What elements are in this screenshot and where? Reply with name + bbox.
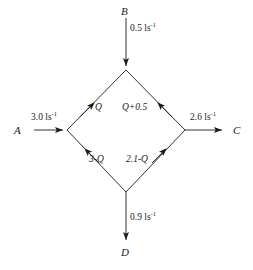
- arrowhead-upper-left: [80, 105, 92, 117]
- flow-unit-exp-inflow-a: -1: [52, 110, 57, 117]
- flow-network-diagram: B A C D 0.5 ls-1 3.0 ls-1 2.6 ls-1 0.9 l…: [0, 0, 253, 270]
- flow-value-outflow-c: 2.6: [190, 112, 202, 122]
- node-label-b: B: [121, 6, 128, 17]
- flow-label-inflow-a: 3.0 ls-1: [31, 113, 57, 123]
- flow-label-outflow-d: 0.9 ls-1: [130, 213, 156, 223]
- arrowhead-lower-right: [152, 151, 164, 163]
- flow-unit-exp-inflow-b: -1: [151, 21, 156, 28]
- edge-line-upper-left: [67, 70, 126, 130]
- edge-label-upper-right: Q+0.5: [122, 103, 147, 113]
- flow-value-outflow-d: 0.9: [130, 212, 142, 222]
- node-label-c: C: [233, 125, 240, 136]
- flow-value-inflow-b: 0.5: [130, 23, 142, 33]
- diagram-canvas: [0, 0, 253, 270]
- flow-label-inflow-b: 0.5 ls-1: [130, 24, 156, 34]
- flow-unit-exp-outflow-c: -1: [211, 110, 216, 117]
- node-label-a: A: [14, 125, 21, 136]
- edge-label-lower-right: 2.1-Q: [126, 155, 148, 165]
- flow-label-outflow-c: 2.6 ls-1: [190, 113, 216, 123]
- node-label-d: D: [121, 247, 129, 258]
- diamond-outline: [67, 70, 185, 192]
- external-arrows: [34, 18, 222, 240]
- edge-label-upper-left: Q: [95, 103, 102, 113]
- edge-line-upper-right: [126, 70, 185, 130]
- edge-label-lower-left: 3-Q: [89, 155, 104, 165]
- arrowhead-upper-right: [160, 105, 172, 117]
- flow-value-inflow-a: 3.0: [31, 112, 43, 122]
- flow-unit-exp-outflow-d: -1: [151, 210, 156, 217]
